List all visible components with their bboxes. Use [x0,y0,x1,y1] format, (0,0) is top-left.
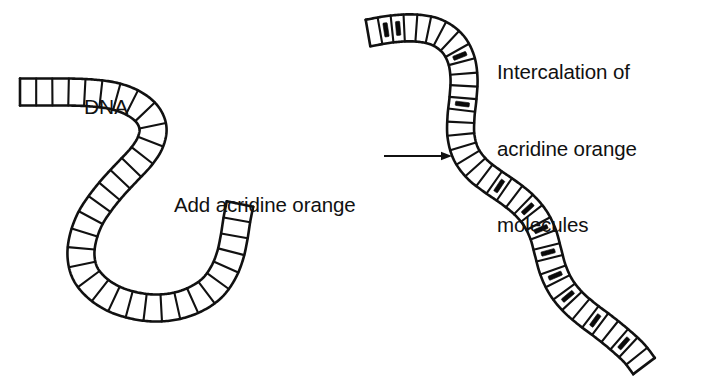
dna-base-pair-rung [404,14,405,41]
dna-base-pair-rung [89,196,111,212]
acridine-orange-bar [383,23,389,38]
label-intercalation-line-2: acridine orange [497,136,637,162]
dna-base-pair-rung [161,294,162,321]
dna-base-pair-rung [456,151,479,165]
dna-base-pair-rung [465,158,485,176]
dna-base-pair-rung [207,273,229,289]
dna-base-pair-rung [126,291,133,317]
dna-base-pair-rung [601,321,618,342]
dna-base-pair-rung [143,294,146,321]
label-add-acridine-orange-text: Add acridine orange [174,192,356,217]
dna-base-pair-rung [138,137,163,147]
label-dna-text: DNA [84,94,128,119]
dna-base-pair-rung [135,102,155,121]
dna-base-pair-rung [449,58,475,65]
dna-base-pair-rung [426,17,431,43]
dna-base-pair-rung [450,97,477,99]
dna-base-pair-rung [139,123,165,128]
dna-strand-end-cap [633,358,655,374]
dna-base-pair-rung [441,31,459,51]
dna-base-pair-rung [68,247,95,249]
label-intercalation-line-1: Intercalation of [497,59,637,85]
label-add-acridine-orange: Add acridine orange [174,142,356,267]
dna-base-pair-rung [450,143,476,151]
dna-base-pair-rung [110,170,130,189]
dna-base-pair-rung [198,282,214,304]
dna-base-pair-rung [448,109,475,112]
dna-base-pair-rung [415,15,417,42]
dna-base-pair-rung [99,183,120,200]
dna-base-pair-rung [68,79,69,106]
acridine-orange-bar [395,21,400,35]
dna-base-pair-rung [174,293,180,319]
dna-base-pair-rung [92,280,109,301]
acridine-orange-bar [455,101,469,107]
reaction-arrow-group [384,152,452,160]
label-dna: DNA [84,44,128,169]
dna-base-pair-rung [434,22,447,46]
dna-base-pair-rung [79,211,103,224]
dna-base-pair-rung [187,288,198,313]
label-intercalation-result: Intercalation of acridine orange molecul… [497,8,637,289]
dna-base-pair-rung [572,299,589,320]
dna-strand-end-cap [366,20,371,47]
dna-base-pair-rung [72,229,98,237]
dna-base-pair-rung [108,287,119,311]
dna-base-pair-rung [447,122,474,123]
dna-base-pair-rung [391,16,394,43]
dna-base-pair-rung [78,271,100,287]
dna-base-pair-rung [450,73,477,75]
dna-base-pair-rung [447,133,474,136]
dna-intercalation-figure: DNA Add acridine orange Intercalation of… [0,0,715,381]
dna-base-pair-rung [378,18,383,45]
dna-base-pair-rung [626,348,647,365]
dna-base-pair-rung [69,262,95,268]
dna-base-pair-rung [450,85,477,86]
label-intercalation-line-3: molecules [497,212,637,238]
dna-base-pair-rung [476,165,492,187]
dna-base-pair-rung [132,147,153,164]
